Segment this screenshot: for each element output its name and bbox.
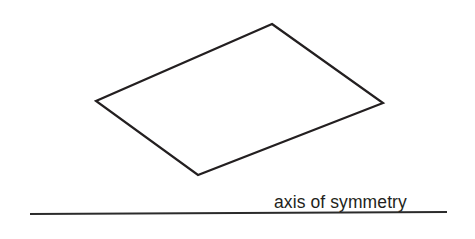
parallelogram-shape (96, 24, 383, 175)
figure-canvas: axis of symmetry (0, 0, 475, 239)
axis-of-symmetry-label: axis of symmetry (274, 192, 407, 212)
axis-of-symmetry-line (30, 212, 447, 214)
